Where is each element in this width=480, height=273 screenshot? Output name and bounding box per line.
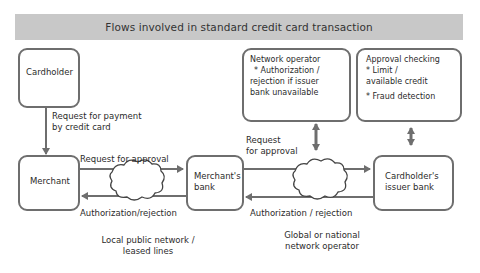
network-label-line: network operator xyxy=(272,241,372,252)
connectors xyxy=(0,0,480,273)
approval-checking-line: * Fraud detection xyxy=(366,91,460,102)
approval-checking-heading: Approval checking xyxy=(366,54,460,65)
node-approval-checking: Approval checking * Limit / available cr… xyxy=(356,48,462,122)
edge-label-line: Request xyxy=(246,135,298,146)
edge-label-merchant-bank: Request for approval xyxy=(80,154,169,165)
merchant-label: Merchant xyxy=(30,176,78,187)
node-merchant: Merchant xyxy=(18,155,80,211)
network-label-line: leased lines xyxy=(88,246,208,257)
network-operator-line: bank unavailable xyxy=(250,87,349,98)
edge-label-line: Request for payment xyxy=(52,111,141,122)
cloud-global-network xyxy=(293,159,347,199)
node-cardholder: Cardholder xyxy=(18,48,80,108)
edge-label-bank-issuer: Request for approval xyxy=(246,135,298,157)
network-operator-line: rejection if issuer xyxy=(250,76,349,87)
approval-checking-line: * Limit / xyxy=(366,65,460,76)
edge-label-issuer-bank: Authorization / rejection xyxy=(250,208,352,219)
edge-label-cardholder-merchant: Request for payment by credit card xyxy=(52,111,141,133)
node-network-operator: Network operator * Authorization / rejec… xyxy=(242,48,351,122)
approval-checking-line: available credit xyxy=(366,76,460,87)
merchants-bank-line2: bank xyxy=(194,182,242,193)
edge-label-line: for approval xyxy=(246,146,298,157)
edge-label-line: by credit card xyxy=(52,122,141,133)
network-operator-heading: Network operator xyxy=(250,54,349,65)
cardholder-label: Cardholder xyxy=(26,67,78,78)
issuer-bank-line1: Cardholder's xyxy=(385,171,452,182)
edge-label-bank-merchant: Authorization/rejection xyxy=(80,208,177,219)
network-label-local: Local public network / leased lines xyxy=(88,235,208,257)
network-label-global: Global or national network operator xyxy=(272,230,372,252)
node-issuer-bank: Cardholder's issuer bank xyxy=(373,155,454,211)
network-label-line: Local public network / xyxy=(88,235,208,246)
issuer-bank-line2: issuer bank xyxy=(385,182,452,193)
node-merchants-bank: Merchant's bank xyxy=(186,155,244,211)
merchants-bank-line1: Merchant's xyxy=(194,171,242,182)
network-operator-line: * Authorization / xyxy=(250,65,349,76)
cloud-local-network xyxy=(110,160,164,200)
network-label-line: Global or national xyxy=(272,230,372,241)
